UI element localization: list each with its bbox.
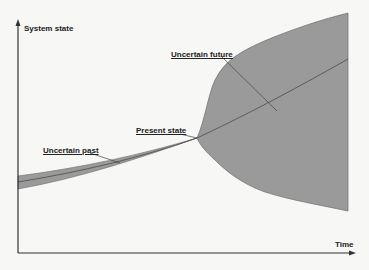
x-axis-arrow-icon <box>349 251 356 256</box>
uncertain-past-label: Uncertain past <box>43 146 99 155</box>
y-axis-arrow-icon <box>16 19 21 26</box>
uncertain-future-label: Uncertain future <box>171 50 233 59</box>
present-state-label: Present state <box>136 126 186 135</box>
future-uncertainty-cone <box>197 13 348 211</box>
y-axis-label: System state <box>24 24 73 33</box>
x-axis-label: Time <box>335 240 354 249</box>
uncertainty-diagram <box>0 0 369 270</box>
